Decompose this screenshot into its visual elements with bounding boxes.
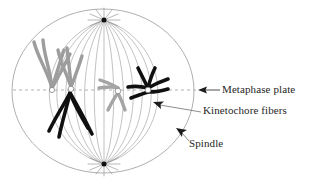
- label-kinetochore-fibers: Kinetochore fibers: [203, 105, 287, 116]
- diagram-root: Metaphase plate Kinetochore fibers Spind…: [0, 0, 328, 185]
- pointer-spindle: [176, 128, 189, 141]
- chromosome-gray-center: [99, 80, 125, 110]
- centrosome-bottom: [102, 162, 107, 167]
- spindle-fibers: [49, 20, 158, 164]
- pointer-metaphase-plate: [198, 87, 220, 94]
- pointer-kinetochore-fibers: [153, 102, 201, 113]
- centrosome-top: [102, 18, 107, 23]
- label-spindle: Spindle: [189, 138, 223, 149]
- arrowhead-spindle: [176, 128, 187, 137]
- kinetochore-center: [115, 88, 121, 94]
- label-metaphase-plate: Metaphase plate: [222, 84, 295, 95]
- kinetochore-right: [145, 87, 151, 93]
- kinetochore-left: [49, 87, 54, 92]
- kinetochore-left-inner: [68, 86, 74, 92]
- chromosome-black-right: [128, 68, 168, 98]
